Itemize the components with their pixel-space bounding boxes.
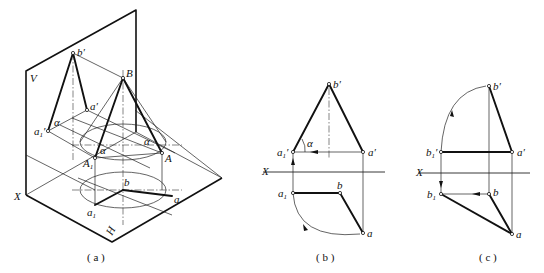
descriptive-geometry-figure: V X H b′ B a′ a1′ α α α A A1 b a a1 ( a … bbox=[0, 0, 544, 273]
label-b-prime: b′ bbox=[77, 46, 86, 58]
proj-line bbox=[48, 131, 95, 158]
label-a-prime: a′ bbox=[368, 146, 377, 158]
rotation-arc bbox=[293, 193, 360, 235]
label-alpha: α bbox=[307, 137, 313, 149]
cone-outline-right bbox=[123, 78, 166, 142]
point-a bbox=[361, 231, 364, 234]
label-alpha-v: α bbox=[54, 116, 60, 128]
label-A1: A1 bbox=[82, 157, 93, 171]
label-b: b bbox=[493, 186, 499, 198]
point-A bbox=[160, 151, 163, 154]
point-a-prime bbox=[510, 150, 513, 153]
arrow-left bbox=[472, 192, 480, 196]
label-X: X bbox=[415, 166, 424, 178]
label-b: b bbox=[124, 176, 130, 188]
label-A: A bbox=[164, 152, 172, 164]
point-a1-prime bbox=[291, 150, 294, 153]
label-a1-prime: a1′ bbox=[277, 146, 289, 160]
line-b-prime-a-prime bbox=[329, 84, 363, 152]
label-a1: a1 bbox=[278, 187, 287, 201]
label-alpha-2: α bbox=[144, 135, 150, 147]
label-a-prime: a′ bbox=[517, 146, 526, 158]
label-X: X bbox=[261, 165, 270, 177]
caption-c: ( c ) bbox=[479, 251, 497, 264]
caption-a: ( a ) bbox=[87, 251, 105, 264]
v-plane-outline bbox=[26, 10, 136, 195]
point-b bbox=[338, 191, 341, 194]
arc-arrow bbox=[303, 224, 308, 231]
label-a-prime: a′ bbox=[90, 100, 99, 112]
label-b-prime: b′ bbox=[333, 78, 342, 90]
label-a1: a1 bbox=[87, 206, 96, 220]
arrow-down bbox=[439, 181, 443, 188]
label-b-prime: b′ bbox=[493, 80, 502, 92]
point-a-prime bbox=[85, 108, 88, 111]
line-b-a bbox=[123, 190, 172, 196]
line-b-prime-a-prime bbox=[73, 53, 87, 110]
line-b-prime-a-prime bbox=[489, 86, 512, 152]
panel-b: X b′ a′ a1′ α a1 b a ( b ) bbox=[261, 78, 385, 264]
label-B: B bbox=[126, 67, 133, 79]
label-a1-prime: a1′ bbox=[34, 125, 46, 139]
label-H: H bbox=[103, 223, 118, 237]
label-V: V bbox=[30, 72, 38, 84]
line-b-a bbox=[340, 193, 363, 233]
arrow-left bbox=[310, 150, 318, 154]
label-a: a bbox=[516, 228, 522, 240]
rotation-arc bbox=[441, 86, 486, 152]
angle-arc-alpha bbox=[302, 139, 305, 152]
point-a1 bbox=[291, 191, 294, 194]
panel-c: X b′ b1′ a′ b1 b a ( c ) bbox=[415, 80, 530, 264]
label-b: b bbox=[337, 179, 343, 191]
arrow-up bbox=[291, 158, 295, 165]
point-b-prime bbox=[71, 51, 74, 54]
label-X: X bbox=[13, 190, 22, 202]
point-b1-prime bbox=[439, 150, 442, 153]
point-A1 bbox=[93, 156, 96, 159]
point-B bbox=[121, 76, 124, 79]
point-b1 bbox=[439, 192, 442, 195]
label-b1: b1 bbox=[427, 188, 436, 202]
point-a1-prime bbox=[46, 129, 49, 132]
label-alpha-1: α bbox=[100, 144, 106, 156]
point-b-prime bbox=[327, 82, 330, 85]
point-a-prime bbox=[361, 150, 364, 153]
point-b bbox=[487, 192, 490, 195]
label-a: a bbox=[174, 193, 180, 205]
label-b1-prime: b1′ bbox=[426, 146, 438, 160]
line-b-a1 bbox=[95, 190, 123, 205]
label-a: a bbox=[367, 227, 373, 239]
line-B-A bbox=[123, 78, 162, 153]
caption-b: ( b ) bbox=[316, 251, 335, 264]
panel-a: V X H b′ B a′ a1′ α α α A A1 b a a1 ( a … bbox=[13, 10, 222, 264]
point-b-prime bbox=[487, 84, 490, 87]
point-a bbox=[510, 232, 513, 235]
